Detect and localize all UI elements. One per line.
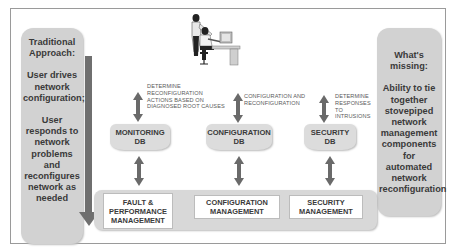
traditional-approach-panel: Traditional Approach: User drives networ… <box>21 28 83 244</box>
configuration-note: CONFIGURATION AND RECONFIGURATION <box>244 93 306 107</box>
security-management-box: SECURITY MANAGEMENT <box>289 195 363 219</box>
configuration-db-label: CONFIGURATION <box>207 128 271 137</box>
double-arrow-icon <box>319 95 329 123</box>
configuration-db-label-2: DB <box>234 137 245 146</box>
monitoring-db-label-2: DB <box>135 137 146 146</box>
down-arrow-icon <box>85 56 92 216</box>
configuration-management-label: CONFIGURATION MANAGEMENT <box>195 198 279 216</box>
double-arrow-icon <box>234 156 244 186</box>
fault-performance-management-label: FAULT & PERFORMANCE MANAGEMENT <box>104 198 172 225</box>
double-arrow-icon <box>134 156 144 186</box>
traditional-approach-point-2: User responds to network problems and re… <box>23 115 81 205</box>
security-db-label-2: DB <box>325 137 336 146</box>
security-db-label: SECURITY <box>311 128 349 137</box>
traditional-approach-heading: Traditional Approach: <box>23 37 81 59</box>
double-arrow-icon <box>233 93 243 123</box>
monitoring-db-label: MONITORING <box>115 128 164 137</box>
whats-missing-heading: What's missing: <box>379 50 439 72</box>
monitoring-note: DETERMINE RECONFIGURATION ACTIONS BASED … <box>147 83 227 110</box>
security-management-label: SECURITY MANAGEMENT <box>290 198 362 216</box>
security-note: DETERMINE RESPONSES TO INTRUSIONS <box>335 93 375 120</box>
traditional-approach-point-1: User drives network configuration; <box>23 70 81 104</box>
whats-missing-body: Ability to tie together stovepiped netwo… <box>379 83 439 195</box>
security-db: SECURITYDB <box>304 124 356 150</box>
configuration-db: CONFIGURATIONDB <box>206 124 272 150</box>
configuration-management-box: CONFIGURATION MANAGEMENT <box>194 195 280 219</box>
monitoring-db: MONITORINGDB <box>110 124 170 150</box>
user-at-workstation-icon <box>172 12 244 72</box>
whats-missing-panel: What's missing: Ability to tie together … <box>377 28 441 216</box>
fault-performance-management-box: FAULT & PERFORMANCE MANAGEMENT <box>103 193 173 229</box>
double-arrow-icon <box>133 92 143 122</box>
double-arrow-icon <box>325 156 335 186</box>
